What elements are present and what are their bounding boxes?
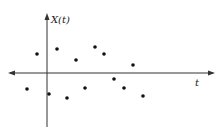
- data-point: [83, 86, 87, 90]
- y-axis-label: X(t): [51, 14, 70, 25]
- data-point: [131, 63, 135, 67]
- scatter-plot: [0, 0, 222, 139]
- x-axis-label: t: [195, 77, 199, 88]
- data-point: [65, 96, 69, 100]
- data-point: [74, 58, 78, 62]
- x-axis-left-arrow-icon: [8, 71, 15, 76]
- data-point: [35, 52, 39, 56]
- data-point: [112, 77, 116, 81]
- data-point: [93, 45, 97, 49]
- data-point: [102, 52, 106, 56]
- data-point: [47, 92, 51, 96]
- data-point: [55, 47, 59, 51]
- data-point: [141, 94, 145, 98]
- data-point: [25, 87, 29, 91]
- data-point: [122, 86, 126, 90]
- y-axis-arrow-icon: [45, 13, 50, 20]
- x-axis-right-arrow-icon: [208, 71, 215, 76]
- axes: [8, 13, 215, 127]
